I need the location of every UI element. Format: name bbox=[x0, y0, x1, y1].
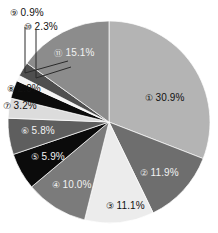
slice-percent-7: 3.2% bbox=[14, 101, 37, 111]
pie-label-slice-9: ⑨ 0.9% bbox=[10, 8, 44, 18]
slice-marker-2: ② bbox=[140, 169, 148, 178]
pie-label-slice-1: ① 30.9% bbox=[145, 93, 184, 103]
slice-marker-4: ④ bbox=[52, 181, 60, 190]
slice-marker-6: ⑥ bbox=[21, 127, 29, 136]
slice-marker-11: ⑪ bbox=[54, 49, 63, 58]
slice-percent-2: 11.9% bbox=[151, 168, 179, 178]
slice-marker-9: ⑨ bbox=[10, 9, 18, 18]
slice-marker-5: ⑤ bbox=[31, 153, 39, 162]
slice-percent-9: 0.9% bbox=[21, 8, 44, 18]
pie-label-slice-10: ⑩ 2.3% bbox=[24, 22, 58, 32]
pie-label-slice-7: ⑦ 3.2% bbox=[3, 101, 37, 111]
slice-percent-1: 30.9% bbox=[156, 93, 185, 103]
pie-chart-canvas bbox=[0, 0, 218, 233]
pie-chart: ① 30.9% ② 11.9% ③ 11.1% ④ 10.0% ⑤ 5.9% ⑥… bbox=[0, 0, 218, 233]
pie-label-slice-3: ③ 11.1% bbox=[106, 201, 145, 211]
pie-label-slice-4: ④ 10.0% bbox=[52, 180, 91, 190]
pie-label-slice-2: ② 11.9% bbox=[140, 168, 179, 178]
slice-marker-7: ⑦ bbox=[3, 102, 11, 111]
slice-marker-1: ① bbox=[145, 94, 153, 103]
slice-percent-8: 2.9% bbox=[18, 84, 41, 94]
pie-label-slice-5: ⑤ 5.9% bbox=[31, 152, 65, 162]
pie-label-slice-8: ⑧ 2.9% bbox=[7, 84, 41, 94]
pie-slice-group bbox=[8, 21, 210, 223]
slice-percent-11: 15.1% bbox=[66, 48, 95, 58]
slice-percent-4: 10.0% bbox=[63, 180, 92, 190]
slice-percent-3: 11.1% bbox=[117, 201, 145, 211]
slice-percent-5: 5.9% bbox=[42, 152, 65, 162]
slice-percent-10: 2.3% bbox=[35, 22, 58, 32]
slice-marker-3: ③ bbox=[106, 202, 114, 211]
pie-label-slice-11: ⑪ 15.1% bbox=[54, 48, 94, 58]
slice-percent-6: 5.8% bbox=[32, 126, 55, 136]
slice-marker-8: ⑧ bbox=[7, 85, 15, 94]
slice-marker-10: ⑩ bbox=[24, 23, 32, 32]
pie-label-slice-6: ⑥ 5.8% bbox=[21, 126, 55, 136]
